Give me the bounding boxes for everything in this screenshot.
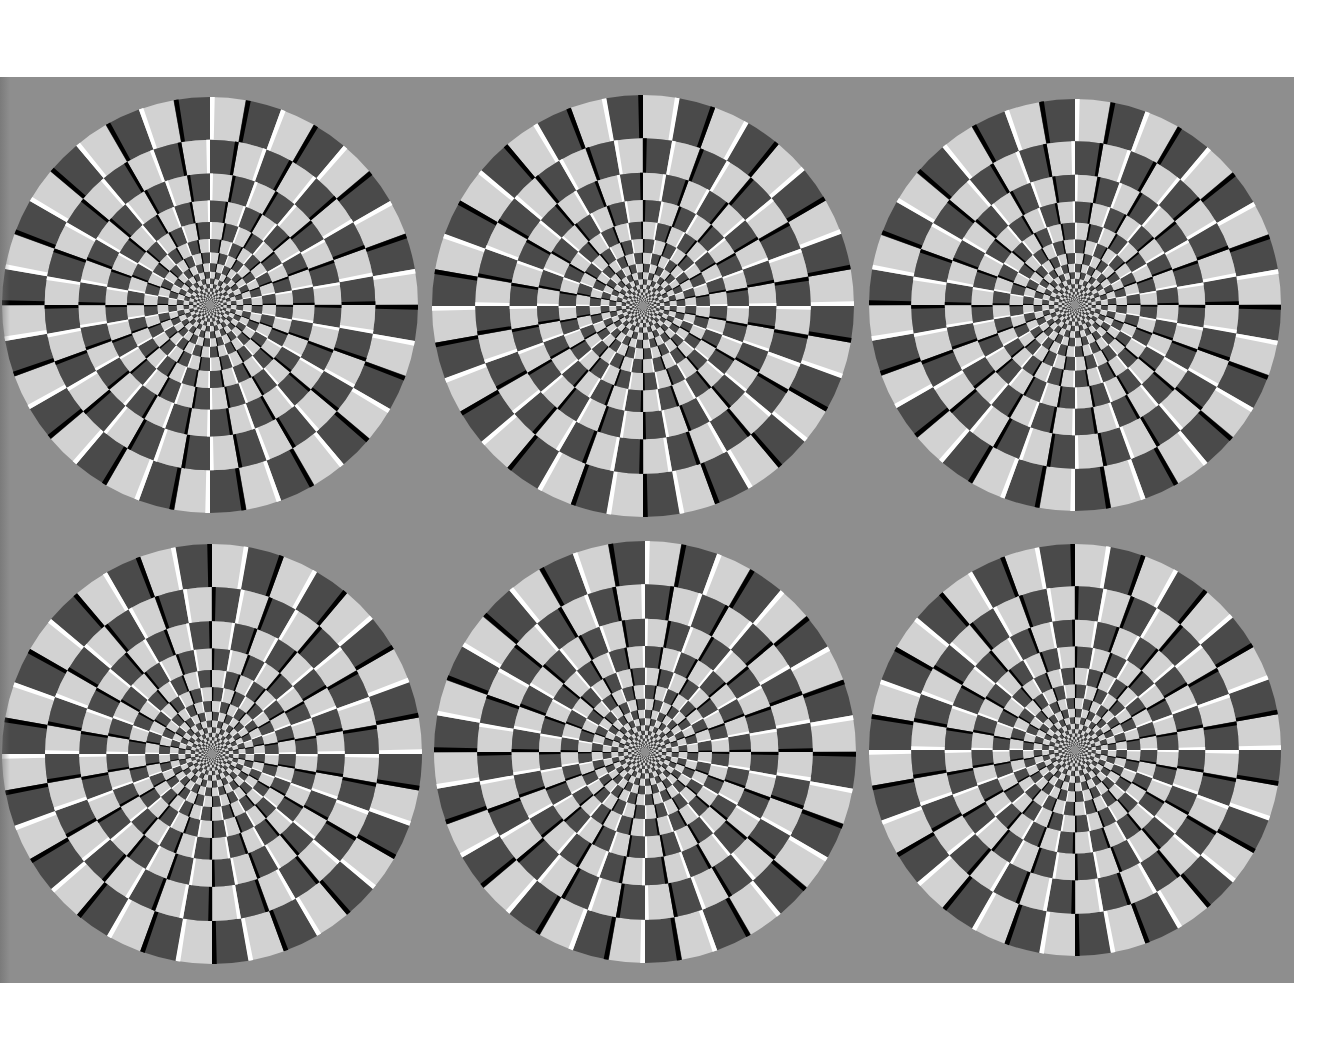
disc-top-left [2,97,418,513]
disc-top-right [869,99,1281,511]
disc-bottom-right [869,544,1281,956]
disc-bottom-center [434,541,856,963]
page [0,0,1334,1041]
discs-layer [2,95,1281,964]
disc-bottom-left [2,544,422,964]
disc-top-center [432,95,854,517]
gray-panel [0,77,1294,983]
illusion-figure [0,77,1294,983]
